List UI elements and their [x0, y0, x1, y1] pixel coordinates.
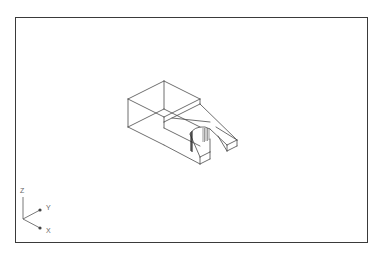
ucs-x-label: X	[46, 227, 51, 234]
model-edge	[164, 145, 200, 164]
ucs-z-label: Z	[20, 187, 25, 194]
ucs-y-axis	[23, 210, 40, 219]
model-edge	[200, 152, 210, 157]
model-canvas[interactable]: Z Y X	[0, 0, 380, 257]
model-edge	[227, 140, 237, 145]
model-edge	[200, 104, 237, 140]
model-edge	[164, 81, 200, 99]
model-edge	[164, 128, 200, 146]
model-edge	[164, 99, 200, 117]
model-edge	[172, 118, 210, 122]
ucs-x-arrow-icon	[38, 226, 41, 229]
fork-bracket-wireframe	[128, 81, 237, 164]
model-edge	[128, 127, 164, 145]
model-edge	[200, 159, 210, 164]
ucs-icon: Z Y X	[20, 187, 51, 234]
model-edge	[128, 99, 164, 117]
ucs-x-axis	[23, 219, 40, 228]
slot-arc	[190, 127, 210, 134]
ucs-y-label: Y	[46, 204, 51, 211]
ucs-y-arrow-icon	[38, 208, 41, 211]
model-edge	[227, 146, 237, 151]
model-edge	[128, 81, 164, 99]
model-edge	[128, 109, 164, 127]
model-edge	[164, 109, 200, 127]
